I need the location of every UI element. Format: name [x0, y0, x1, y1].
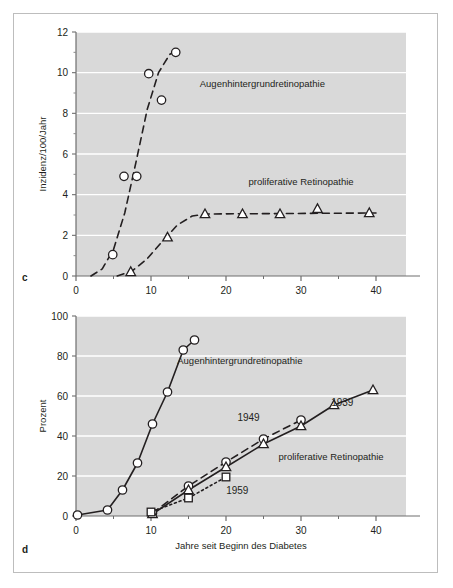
data-point-circle: [103, 506, 111, 514]
x-tick-label: 30: [295, 525, 307, 536]
data-point-square: [185, 494, 193, 502]
y-tick-label: 6: [62, 149, 68, 160]
y-tick-label: 0: [62, 511, 68, 522]
x-tick-label: 0: [73, 285, 79, 294]
data-point-circle: [157, 96, 165, 104]
y-tick-label: 40: [57, 431, 69, 442]
y-tick-label: 2: [62, 230, 68, 241]
data-point-square: [147, 508, 155, 516]
x-tick-label: 20: [220, 285, 232, 294]
data-point-circle: [163, 388, 171, 396]
data-point-circle: [120, 172, 128, 180]
data-point-circle: [133, 459, 141, 467]
x-tick-label: 40: [370, 525, 382, 536]
x-tick-label: 30: [295, 285, 307, 294]
data-point-circle: [179, 346, 187, 354]
panel-d-letter: d: [22, 544, 28, 555]
data-point-square: [222, 473, 230, 481]
x-tick-label: 0: [73, 525, 79, 536]
panel-c: 024681012010203040Jahre seit Beginn des …: [14, 14, 437, 294]
data-point-circle: [109, 250, 117, 258]
data-point-circle: [118, 486, 126, 494]
chart-c-plot: 024681012010203040Jahre seit Beginn des …: [14, 14, 437, 294]
series-label: Augenhintergrundretinopathie: [200, 78, 325, 89]
y-tick-label: 20: [57, 471, 69, 482]
data-point-circle: [172, 48, 180, 56]
annotation-year-label: 1959: [226, 485, 249, 496]
y-tick-label: 12: [57, 27, 69, 38]
y-tick-label: 4: [62, 189, 68, 200]
data-point-circle: [148, 420, 156, 428]
y-tick-label: 0: [62, 271, 68, 282]
data-point-circle: [190, 336, 198, 344]
series-label: proliferative Retinopathie: [249, 176, 354, 187]
y-tick-label: 8: [62, 108, 68, 119]
x-tick-label: 20: [220, 525, 232, 536]
annotation-year-label: 1939: [331, 397, 354, 408]
x-tick-label: 10: [145, 285, 157, 294]
x-tick-label: 10: [145, 525, 157, 536]
series-label: Augenhintergrundretinopathie: [177, 355, 302, 366]
data-point-circle: [145, 69, 153, 77]
y-tick-label: 60: [57, 391, 69, 402]
x-axis-title: Jahre seit Beginn des Diabetes: [175, 540, 307, 551]
annotation-year-label: 1949: [237, 412, 260, 423]
series-label: proliferative Retinopathie: [279, 451, 384, 462]
y-axis-title: Inzidenz/100/Jahr: [37, 117, 48, 192]
data-point-circle: [73, 511, 81, 519]
y-tick-label: 80: [57, 351, 69, 362]
data-point-circle: [133, 172, 141, 180]
panel-c-letter: c: [22, 272, 28, 283]
x-tick-label: 40: [370, 285, 382, 294]
panel-d: 020406080100010203040Jahre seit Beginn d…: [14, 294, 437, 572]
y-tick-label: 100: [51, 311, 68, 322]
chart-d-plot: 020406080100010203040Jahre seit Beginn d…: [14, 294, 437, 572]
figure-container: 024681012010203040Jahre seit Beginn des …: [13, 13, 438, 573]
y-axis-title: Prozent: [37, 399, 48, 432]
y-tick-label: 10: [57, 67, 69, 78]
